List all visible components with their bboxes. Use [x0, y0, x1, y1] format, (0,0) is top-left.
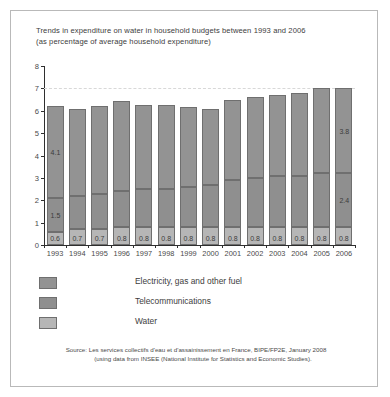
x-tick-mark: [200, 245, 201, 248]
x-tick-mark: [133, 245, 134, 248]
bar-segment[interactable]: 0.8: [135, 227, 152, 245]
bar-segment[interactable]: 0.7: [91, 229, 108, 245]
bar-segment[interactable]: [135, 105, 152, 189]
legend-item-telecommunications[interactable]: Telecommunications: [39, 294, 339, 314]
bar-segment[interactable]: 0.8: [180, 227, 197, 245]
bar-segment[interactable]: [269, 95, 286, 176]
bar-segment[interactable]: [269, 176, 286, 227]
legend-item-electricity[interactable]: Electricity, gas and other fuel: [39, 274, 339, 294]
bar-segment[interactable]: [158, 105, 175, 189]
bar-segment[interactable]: 0.8: [202, 227, 219, 245]
bar-segment[interactable]: 0.8: [224, 227, 241, 245]
bar-column[interactable]: 0.7: [69, 66, 86, 245]
bar-segment[interactable]: [202, 185, 219, 228]
bar-value-label: 0.7: [95, 235, 105, 242]
bar-segment[interactable]: 0.8: [291, 227, 308, 245]
bar-segment[interactable]: [247, 178, 264, 227]
bar-value-label: 0.8: [339, 235, 349, 242]
bar-segment[interactable]: 0.8: [269, 227, 286, 245]
x-tick-mark: [111, 245, 112, 248]
bar-segment[interactable]: 0.8: [247, 227, 264, 245]
legend-swatch-electricity: [39, 277, 57, 289]
x-tick-label-2000: 2000: [202, 249, 218, 258]
legend-label-electricity: Electricity, gas and other fuel: [135, 276, 242, 286]
bar-column[interactable]: 0.8: [224, 66, 241, 245]
legend-item-water[interactable]: Water: [39, 314, 339, 334]
bar-value-label: 0.8: [184, 235, 194, 242]
bar-value-label: 0.8: [161, 235, 171, 242]
bar-column[interactable]: 0.61.54.1: [47, 66, 64, 245]
bar-segment[interactable]: 0.7: [69, 229, 86, 245]
y-tick-label-6: 6: [35, 106, 39, 115]
bar-segment[interactable]: [313, 88, 330, 173]
bar-segment[interactable]: [313, 173, 330, 227]
legend-label-water: Water: [135, 316, 157, 326]
bar-segment[interactable]: 0.8: [313, 227, 330, 245]
bar-segment[interactable]: [180, 107, 197, 186]
bar-segment[interactable]: [91, 106, 108, 193]
bar-column[interactable]: 0.8: [180, 66, 197, 245]
bar-value-label: 0.6: [50, 235, 60, 242]
x-tick-label-1998: 1998: [158, 249, 174, 258]
bar-value-label: 1.5: [51, 211, 61, 218]
y-tick-label-0: 0: [35, 241, 39, 250]
bar-segment[interactable]: [113, 191, 130, 227]
y-tick-label-4: 4: [35, 151, 39, 160]
bar-value-label: 0.8: [250, 235, 260, 242]
bar-segment[interactable]: [69, 196, 86, 230]
bar-segment[interactable]: [224, 100, 241, 181]
bar-value-label: 0.8: [317, 235, 327, 242]
bar-segment[interactable]: [69, 109, 86, 196]
bar-segment[interactable]: 3.8: [335, 88, 352, 173]
bar-segment[interactable]: [202, 109, 219, 185]
bar-column[interactable]: 0.8: [291, 66, 308, 245]
bar-column[interactable]: 0.8: [158, 66, 175, 245]
chart-title: Trends in expenditure on water in househ…: [36, 25, 356, 47]
x-tick-mark: [333, 245, 334, 248]
bar-segment[interactable]: 4.1: [47, 106, 64, 198]
y-tick-label-2: 2: [35, 196, 39, 205]
bar-column[interactable]: 0.8: [313, 66, 330, 245]
y-tick-label-1: 1: [35, 218, 39, 227]
bar-segment[interactable]: 0.8: [113, 227, 130, 245]
bar-segment[interactable]: [158, 189, 175, 227]
bar-value-label: 0.8: [139, 235, 149, 242]
bar-segment[interactable]: [91, 194, 108, 230]
x-tick-label-2006: 2006: [336, 249, 352, 258]
bar-segment[interactable]: 0.6: [47, 232, 64, 245]
bar-column[interactable]: 0.7: [91, 66, 108, 245]
legend-swatch-water: [39, 317, 57, 329]
x-tick-mark: [177, 245, 178, 248]
x-tick-label-2003: 2003: [269, 249, 285, 258]
bar-segment[interactable]: [135, 189, 152, 227]
bar-column[interactable]: 0.82.43.8: [335, 66, 352, 245]
source-line-1: Source: Les services collectifs d'eau et…: [29, 345, 363, 354]
bar-segment[interactable]: [113, 101, 130, 192]
x-tick-mark: [66, 245, 67, 248]
bar-column[interactable]: 0.8: [269, 66, 286, 245]
bar-column[interactable]: 0.8: [247, 66, 264, 245]
bar-column[interactable]: 0.8: [113, 66, 130, 245]
bar-segment[interactable]: [291, 93, 308, 176]
bar-value-label: 3.8: [339, 127, 349, 134]
y-tick-label-7: 7: [35, 84, 39, 93]
bar-segment[interactable]: 2.4: [335, 173, 352, 227]
x-tick-label-2001: 2001: [225, 249, 241, 258]
chart-legend: Electricity, gas and other fuelTelecommu…: [39, 274, 339, 334]
bar-value-label: 2.4: [339, 197, 349, 204]
bar-column[interactable]: 0.8: [135, 66, 152, 245]
bar-segment[interactable]: [180, 187, 197, 227]
x-tick-label-1996: 1996: [114, 249, 130, 258]
bar-segment[interactable]: 1.5: [47, 198, 64, 232]
bar-segment[interactable]: [247, 97, 264, 178]
bar-segment[interactable]: 0.8: [335, 227, 352, 245]
bar-column[interactable]: 0.8: [202, 66, 219, 245]
bar-segment[interactable]: [291, 176, 308, 227]
chart-title-line-1: Trends in expenditure on water in househ…: [36, 25, 356, 36]
x-tick-mark: [266, 245, 267, 248]
bar-value-label: 0.8: [206, 235, 216, 242]
bar-segment[interactable]: [224, 180, 241, 227]
chart-title-line-2: (as percentage of average household expe…: [36, 36, 356, 47]
bar-segment[interactable]: 0.8: [158, 227, 175, 245]
x-tick-mark: [155, 245, 156, 248]
